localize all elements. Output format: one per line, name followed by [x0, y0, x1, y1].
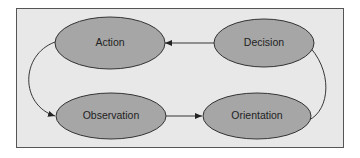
node-action: Action — [55, 17, 165, 69]
ooda-loop-diagram: Action Decision Observation Orientation — [0, 0, 360, 158]
node-observation: Observation — [56, 93, 166, 139]
node-label: Action — [95, 36, 124, 48]
node-label: Decision — [244, 36, 284, 48]
node-label: Observation — [83, 109, 140, 121]
node-label: Orientation — [231, 109, 283, 121]
node-decision: Decision — [214, 19, 314, 67]
node-orientation: Orientation — [203, 93, 311, 139]
